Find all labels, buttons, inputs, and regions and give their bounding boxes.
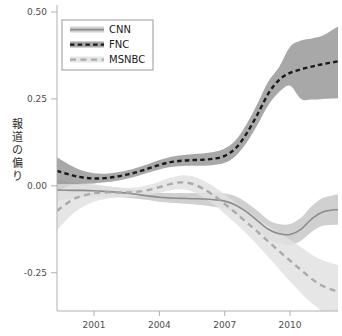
y-tick-label: -0.25 — [24, 268, 47, 278]
x-tick-label: 2001 — [83, 320, 106, 330]
x-tick-label: 2004 — [148, 320, 171, 330]
y-axis-ticks: 0.500.250.00-0.25 — [24, 7, 57, 278]
chart-container: 報 道 の 偏 り 0.500.250.00-0.25 200120042007… — [0, 0, 342, 336]
y-tick-label: 0.50 — [27, 7, 47, 17]
legend-label-cnn[interactable]: CNN — [109, 24, 131, 35]
legend: CNNFNCMSNBC — [62, 20, 153, 70]
chart-svg: 0.500.250.00-0.25 2001200420072010 CNNFN… — [0, 0, 342, 336]
x-axis-ticks: 2001200420072010 — [83, 311, 302, 330]
x-tick-label: 2007 — [213, 320, 236, 330]
x-tick-label: 2010 — [279, 320, 302, 330]
y-tick-label: 0.00 — [27, 181, 47, 191]
y-tick-label: 0.25 — [27, 94, 47, 104]
legend-label-msnbc[interactable]: MSNBC — [109, 54, 145, 65]
legend-label-fnc[interactable]: FNC — [109, 39, 129, 50]
